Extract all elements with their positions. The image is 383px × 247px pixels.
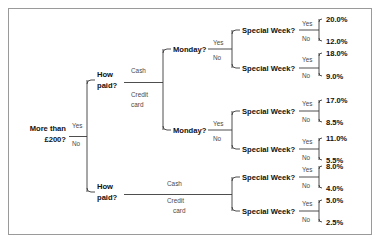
edge-credit-top-corner bbox=[163, 126, 167, 130]
edge-cash-top-corner bbox=[163, 49, 167, 53]
special-week-label-5: Special Week? bbox=[242, 173, 295, 182]
edge-sw6-corner-yes bbox=[319, 200, 322, 203]
monday-bottom-yes-label: Yes bbox=[213, 120, 223, 127]
special-week-label-4: Special Week? bbox=[242, 145, 295, 154]
leaf-value-2: 12.0% bbox=[326, 37, 348, 46]
leaf-value-3: 18.0% bbox=[326, 49, 348, 58]
edge-sw3-corner-yes bbox=[319, 100, 322, 103]
special-week-4-no-label: No bbox=[302, 154, 311, 161]
edge-monday-bottom-corner-yes bbox=[232, 111, 236, 115]
special-week-3-no-label: No bbox=[302, 116, 311, 123]
special-week-2-yes-label: Yes bbox=[302, 56, 312, 63]
leaf-value-1: 20.0% bbox=[326, 15, 348, 24]
special-week-6-no-label: No bbox=[302, 216, 311, 223]
edge-credit-bottom-corner bbox=[232, 207, 236, 211]
edge-sw3-corner-no bbox=[319, 119, 322, 122]
edge-sw5-corner-no bbox=[319, 185, 322, 188]
monday-top-label: Monday? bbox=[173, 45, 207, 54]
edge-sw4-corner-no bbox=[319, 157, 322, 160]
special-week-2-no-label: No bbox=[302, 72, 311, 79]
how-paid-top-label-line1: How bbox=[97, 70, 113, 79]
edge-sw5-corner-yes bbox=[319, 166, 322, 169]
special-week-label-3: Special Week? bbox=[242, 107, 295, 116]
root-node-label-line2: £200? bbox=[44, 135, 66, 144]
leaf-value-10: 4.0% bbox=[326, 184, 344, 193]
edge-monday-top-corner-no bbox=[232, 64, 236, 68]
edge-sw6-corner-no bbox=[319, 219, 322, 222]
decision-tree-page: More than £200? Yes No How paid? Cash Cr… bbox=[0, 0, 383, 247]
monday-bottom-no-label: No bbox=[213, 135, 222, 142]
edge-sw1-corner-no bbox=[319, 38, 322, 41]
special-week-label-2: Special Week? bbox=[242, 64, 295, 73]
decision-tree-diagram: More than £200? Yes No How paid? Cash Cr… bbox=[0, 0, 383, 247]
monday-top-yes-label: Yes bbox=[213, 39, 223, 46]
special-week-label-6: Special Week? bbox=[242, 207, 295, 216]
special-week-1-no-label: No bbox=[302, 35, 311, 42]
special-week-5-yes-label: Yes bbox=[302, 166, 312, 173]
cash-bottom-label: Cash bbox=[167, 180, 182, 187]
special-week-label-1: Special Week? bbox=[242, 26, 295, 35]
edge-root-corner-bottom bbox=[87, 188, 91, 192]
edge-monday-top-corner-yes bbox=[232, 30, 236, 34]
leaf-value-4: 9.0% bbox=[326, 72, 344, 81]
credit-top-label-line2: card bbox=[131, 101, 144, 108]
monday-top-no-label: No bbox=[213, 54, 222, 61]
special-week-6-yes-label: Yes bbox=[302, 200, 312, 207]
credit-top-label-line1: Credit bbox=[131, 91, 148, 98]
edge-root-corner-top bbox=[87, 80, 91, 84]
leaf-value-5: 17.0% bbox=[326, 96, 348, 105]
how-paid-bottom-label-line1: How bbox=[97, 182, 113, 191]
edge-sw2-corner-yes bbox=[319, 53, 322, 56]
credit-bottom-label-line1: Credit bbox=[167, 197, 184, 204]
special-week-4-yes-label: Yes bbox=[302, 138, 312, 145]
edge-sw4-corner-yes bbox=[319, 138, 322, 141]
root-branch-no-label: No bbox=[72, 140, 81, 147]
how-paid-top-label-line2: paid? bbox=[97, 81, 118, 90]
how-paid-bottom-label-line2: paid? bbox=[97, 193, 118, 202]
monday-bottom-label: Monday? bbox=[173, 126, 207, 135]
special-week-3-yes-label: Yes bbox=[302, 100, 312, 107]
root-node-label-line1: More than bbox=[30, 124, 67, 133]
leaf-value-12: 2.5% bbox=[326, 218, 344, 227]
edge-monday-bottom-corner-no bbox=[232, 145, 236, 149]
credit-bottom-label-line2: card bbox=[173, 207, 186, 214]
leaf-value-7: 11.0% bbox=[326, 134, 347, 143]
cash-top-label: Cash bbox=[131, 67, 146, 74]
leaf-value-6: 8.5% bbox=[326, 118, 344, 127]
edge-sw1-corner-yes bbox=[319, 19, 322, 22]
root-branch-yes-label: Yes bbox=[72, 122, 82, 129]
edge-cash-bottom-corner bbox=[232, 177, 236, 181]
leaf-value-11: 5.0% bbox=[326, 196, 344, 205]
leaf-value-9: 8.0% bbox=[326, 162, 344, 171]
special-week-5-no-label: No bbox=[302, 182, 311, 189]
special-week-1-yes-label: Yes bbox=[302, 20, 312, 27]
edge-sw2-corner-no bbox=[319, 73, 322, 76]
